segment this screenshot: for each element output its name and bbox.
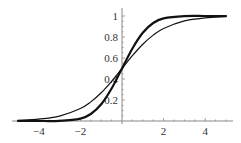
x-tick-label: 2 xyxy=(161,125,167,137)
y-tick-label: 0.8 xyxy=(104,31,118,43)
x-tick-label: −2 xyxy=(75,125,87,137)
plot-area: −4−2240.20.40.60.81 xyxy=(0,0,241,143)
sigmoid-chart: −4−2240.20.40.60.81 xyxy=(0,0,241,143)
y-tick-label: 1 xyxy=(113,10,119,22)
x-tick-label: −4 xyxy=(33,125,45,137)
x-tick-label: 4 xyxy=(202,125,208,137)
y-tick-label: 0.6 xyxy=(104,52,118,64)
